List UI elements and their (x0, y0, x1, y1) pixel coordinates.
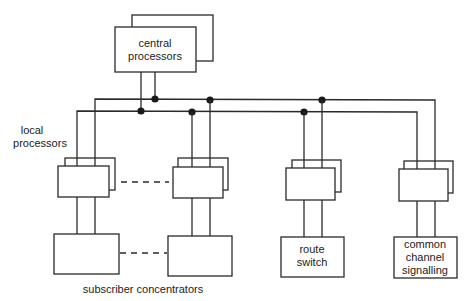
ccs-label-line3: signalling (402, 264, 448, 276)
common-channel-signalling: common channel signalling (394, 237, 457, 278)
local-processor-4-box (399, 169, 448, 201)
subscriber-concentrator-2 (168, 236, 232, 276)
subscriber-concentrator-1 (54, 234, 119, 274)
bus-b (77, 111, 417, 169)
route-switch-label-line1: route (299, 243, 324, 255)
local-processors-label-line2: processors (13, 137, 67, 149)
route-switch: route switch (281, 237, 344, 277)
exchange-architecture-diagram: central processors local processors (0, 0, 466, 301)
local-processor-2-box (173, 167, 223, 198)
central-label-line2: processors (128, 50, 182, 62)
central-label-line1: central (138, 37, 171, 49)
ccs-label-line1: common (404, 238, 446, 250)
junction-dots (137, 95, 325, 115)
route-switch-label-line2: switch (297, 256, 328, 268)
local-processor-3-box (286, 168, 335, 200)
ccs-label-line2: channel (406, 251, 445, 263)
local-processor-4 (399, 161, 453, 237)
junction-central-a (151, 95, 158, 102)
local-processor-2 (173, 158, 228, 236)
bus-a (95, 99, 435, 169)
dual-bus (77, 99, 435, 169)
local-processor-1 (58, 158, 115, 234)
local-processor-3 (286, 160, 341, 237)
junction-central-b (137, 107, 144, 114)
local-processor-1-box (58, 166, 109, 197)
subscriber-concentrators-label: subscriber concentrators (83, 283, 204, 295)
central-processors: central processors (115, 15, 213, 111)
local-processors-label-line1: local (21, 124, 44, 136)
